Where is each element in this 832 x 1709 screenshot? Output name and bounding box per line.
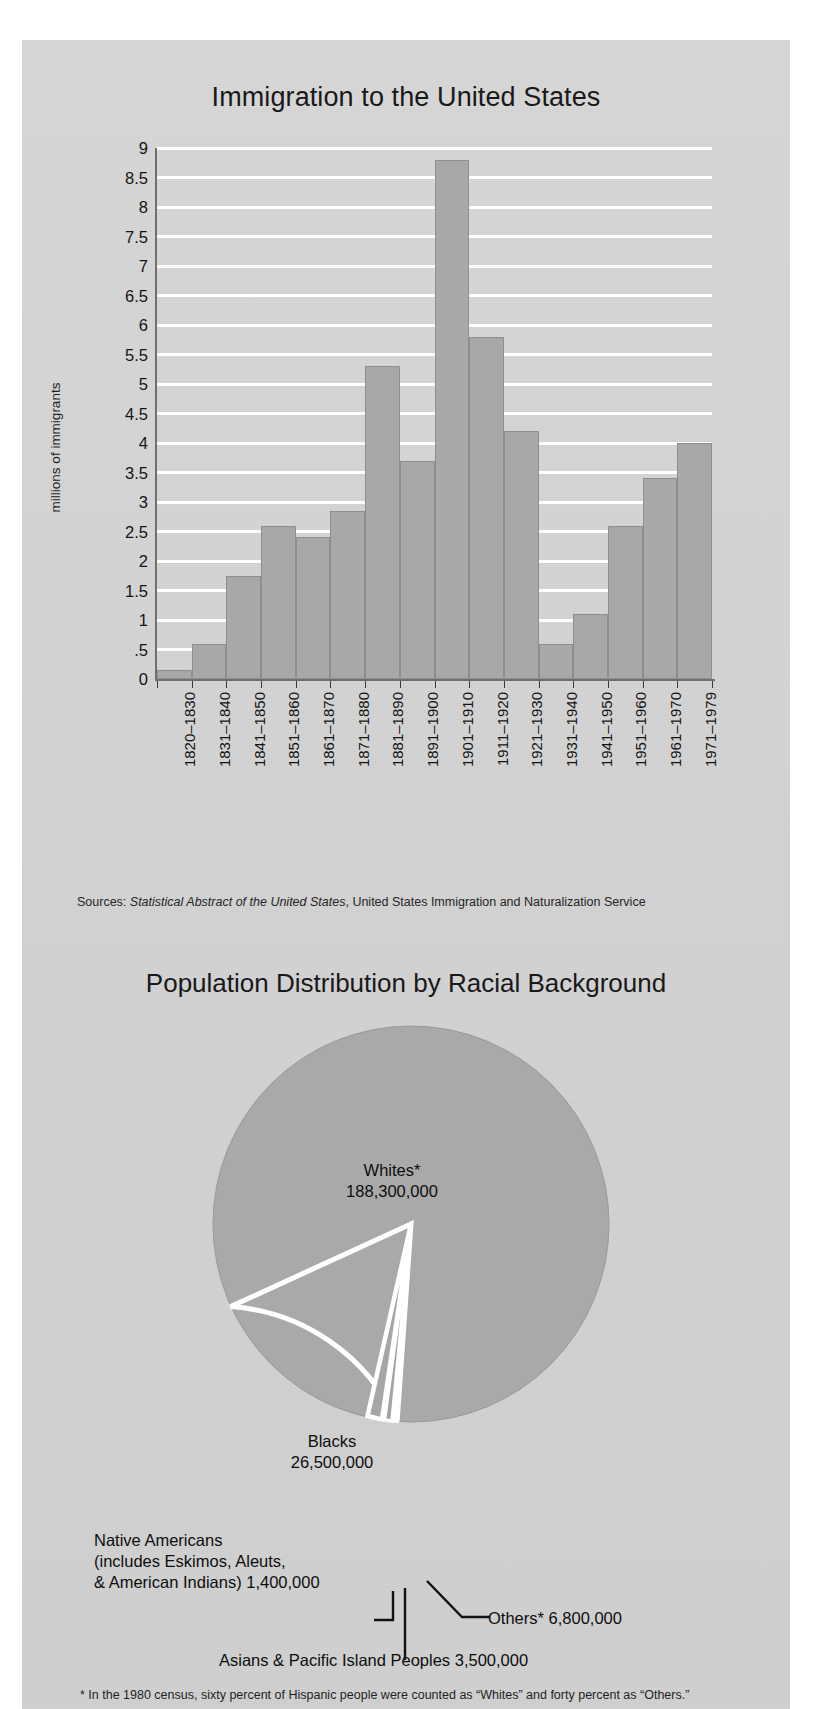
pie-label-blacks: Blacks 26,500,000 <box>252 1431 412 1473</box>
pie-svg <box>212 1025 610 1423</box>
pie-label-whites: Whites* 188,300,000 <box>292 1160 492 1202</box>
y-tick-label: 2 <box>82 552 148 571</box>
bar-chart-title: Immigration to the United States <box>22 82 790 113</box>
y-tick-label: 6 <box>82 316 148 335</box>
pie-label-native-line1: Native Americans <box>94 1530 320 1551</box>
x-tick-label: 1961–1970 <box>667 692 684 812</box>
bar <box>296 537 331 679</box>
x-tick-label: 1931–1940 <box>563 692 580 812</box>
y-tick-label: 8.5 <box>82 168 148 187</box>
x-tick-label: 1881–1890 <box>389 692 406 812</box>
x-tick-mark <box>226 681 227 688</box>
population-pie-chart <box>212 1025 610 1423</box>
pie-label-native-americans: Native Americans (includes Eskimos, Aleu… <box>94 1530 320 1593</box>
y-tick-label: 3.5 <box>82 463 148 482</box>
sources-prefix: Sources: <box>77 895 130 909</box>
x-tick-label: 1841–1850 <box>251 692 268 812</box>
x-tick-label: 1871–1880 <box>355 692 372 812</box>
poster-panel: Immigration to the United States million… <box>22 40 790 1709</box>
x-tick-mark <box>365 681 366 688</box>
y-tick-label: 0 <box>82 670 148 689</box>
bar-chart-sources: Sources: Statistical Abstract of the Uni… <box>77 895 646 909</box>
bar <box>504 431 539 679</box>
x-tick-label: 1820–1830 <box>181 692 198 812</box>
y-tick-label: 7 <box>82 257 148 276</box>
bar <box>608 526 643 679</box>
bar-chart-x-axis-line <box>157 679 715 681</box>
x-tick-mark <box>643 681 644 688</box>
y-tick-label: 1 <box>82 611 148 630</box>
sources-italic-title: Statistical Abstract of the United State… <box>130 895 346 909</box>
bar <box>469 337 504 679</box>
x-tick-mark <box>677 681 678 688</box>
poster-page: Immigration to the United States million… <box>0 0 832 1709</box>
bar-chart-bars <box>157 148 712 679</box>
bar <box>573 614 608 679</box>
pie-label-blacks-value: 26,500,000 <box>252 1452 412 1473</box>
y-tick-label: 8 <box>82 198 148 217</box>
x-tick-mark <box>712 681 713 688</box>
x-tick-mark <box>573 681 574 688</box>
bar <box>192 644 227 679</box>
y-tick-label: 1.5 <box>82 581 148 600</box>
sources-suffix: , United States Immigration and Naturali… <box>345 895 645 909</box>
y-tick-label: 5.5 <box>82 345 148 364</box>
bar <box>677 443 712 679</box>
bar <box>157 670 192 679</box>
x-tick-label: 1831–1840 <box>216 692 233 812</box>
x-tick-label: 1951–1960 <box>632 692 649 812</box>
y-tick-label: .5 <box>82 640 148 659</box>
pie-label-asians: Asians & Pacific Island Peoples 3,500,00… <box>219 1650 528 1671</box>
pie-label-whites-value: 188,300,000 <box>292 1181 492 1202</box>
leader-line-native-americans <box>374 1591 393 1620</box>
bar <box>261 526 296 679</box>
bar <box>365 366 400 679</box>
pie-label-others: Others* 6,800,000 <box>488 1608 622 1629</box>
pie-label-native-line2: (includes Eskimos, Aleuts, <box>94 1551 320 1572</box>
y-tick-label: 5 <box>82 375 148 394</box>
x-tick-mark <box>469 681 470 688</box>
x-tick-mark <box>435 681 436 688</box>
y-tick-label: 7.5 <box>82 227 148 246</box>
x-tick-label: 1911–1920 <box>494 692 511 812</box>
x-tick-label: 1861–1870 <box>320 692 337 812</box>
x-tick-mark <box>608 681 609 688</box>
bar <box>539 644 574 679</box>
immigration-bar-chart: Immigration to the United States million… <box>22 40 790 920</box>
bar <box>643 478 678 679</box>
pie-footnote-asterisk: * In the 1980 census, sixty percent of H… <box>80 1688 689 1702</box>
y-tick-label: 9 <box>82 139 148 158</box>
x-tick-mark <box>192 681 193 688</box>
y-tick-label: 3 <box>82 493 148 512</box>
pie-label-blacks-name: Blacks <box>252 1431 412 1452</box>
x-tick-label: 1941–1950 <box>598 692 615 812</box>
bar-chart-y-axis-label: millions of immigrants <box>48 368 63 528</box>
x-tick-mark <box>261 681 262 688</box>
bar <box>330 511 365 679</box>
x-tick-mark <box>296 681 297 688</box>
pie-label-native-line3: & American Indians) 1,400,000 <box>94 1572 320 1593</box>
bar <box>226 576 261 679</box>
x-tick-label: 1851–1860 <box>285 692 302 812</box>
bar <box>400 461 435 679</box>
x-tick-mark <box>330 681 331 688</box>
x-tick-mark <box>504 681 505 688</box>
x-tick-label: 1971–1979 <box>702 692 719 812</box>
pie-chart-title: Population Distribution by Racial Backgr… <box>22 968 790 999</box>
y-tick-label: 2.5 <box>82 522 148 541</box>
leader-line-others <box>427 1581 490 1617</box>
x-tick-label: 1901–1910 <box>459 692 476 812</box>
bar <box>435 160 470 679</box>
x-tick-mark <box>539 681 540 688</box>
x-tick-label: 1921–1930 <box>528 692 545 812</box>
x-tick-mark <box>157 681 158 688</box>
y-tick-label: 4.5 <box>82 404 148 423</box>
x-tick-mark <box>400 681 401 688</box>
pie-label-whites-name: Whites* <box>292 1160 492 1181</box>
x-tick-label: 1891–1900 <box>424 692 441 812</box>
y-tick-label: 4 <box>82 434 148 453</box>
y-tick-label: 6.5 <box>82 286 148 305</box>
